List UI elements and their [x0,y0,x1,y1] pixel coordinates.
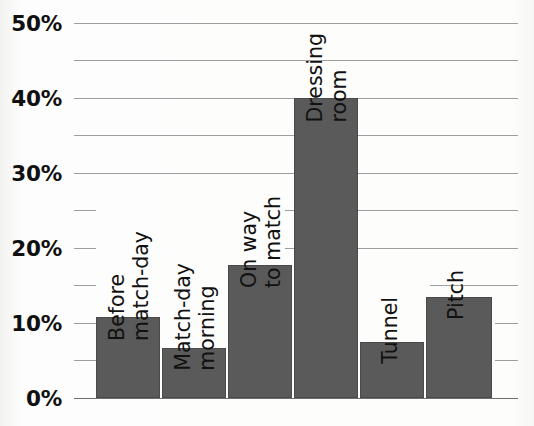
tick-25 [74,210,96,211]
category-label-line: On way [237,196,261,288]
tick-20 [74,248,96,249]
category-label-line: Tunnel [378,297,402,364]
category-label-line: match-day [129,231,153,341]
category-label-on-way-to-match: On way to match [237,196,285,288]
x-axis-baseline [74,398,518,399]
bar-chart: 50% 40% 30% 20% 10% 0% B [0,0,534,426]
category-label-tunnel: Tunnel [378,297,402,364]
category-label-line: Match-day [171,263,195,371]
y-axis-label-50: 50% [0,11,62,36]
gridline-10-right [495,323,518,324]
category-label-line: room [327,33,351,122]
y-axis-label-20: 20% [0,236,62,261]
tick-5 [74,360,96,361]
tick-15 [74,285,96,286]
category-label-pitch: Pitch [444,270,468,320]
category-label-dressing-room: Dressing room [303,33,351,122]
y-axis-label-0: 0% [0,386,62,411]
gridline-5-right [495,360,518,361]
category-label-line: Dressing [303,33,327,122]
category-label-line: to match [261,196,285,288]
category-label-before-match-day: Before match-day [105,231,153,341]
plot-area [96,23,495,398]
bar-dressing-room[interactable] [294,98,358,398]
y-axis-label-30: 30% [0,161,62,186]
y-axis-label-40: 40% [0,86,62,111]
y-axis-label-10: 10% [0,311,62,336]
category-label-line: Before [105,231,129,341]
category-label-line: Pitch [444,270,468,320]
category-label-line: morning [195,263,219,371]
category-label-match-day-morning: Match-day morning [171,263,219,371]
tick-10 [74,323,96,324]
